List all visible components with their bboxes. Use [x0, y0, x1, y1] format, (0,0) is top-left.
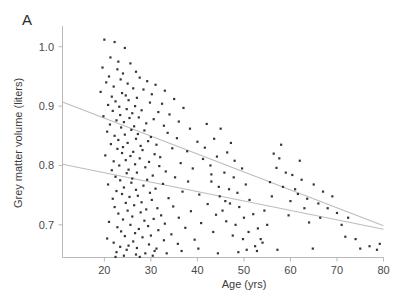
data-point	[123, 186, 125, 188]
data-point	[150, 136, 152, 138]
data-point	[107, 104, 109, 106]
data-point	[257, 227, 259, 229]
data-point	[107, 183, 109, 185]
data-point	[178, 120, 180, 122]
data-point	[341, 224, 343, 226]
data-point	[260, 238, 262, 240]
data-point	[131, 177, 133, 179]
data-point	[132, 151, 134, 153]
data-point	[134, 105, 136, 107]
data-point	[121, 92, 123, 94]
data-point	[120, 230, 122, 232]
data-point	[271, 195, 273, 197]
data-point	[234, 160, 236, 162]
data-point	[114, 206, 116, 208]
data-point	[128, 196, 130, 198]
data-point	[158, 165, 160, 167]
data-point	[127, 245, 129, 247]
data-point	[151, 199, 153, 201]
data-point	[213, 138, 215, 140]
data-point	[247, 231, 249, 233]
data-point	[139, 77, 141, 79]
data-point	[146, 80, 148, 82]
x-tick-label: 30	[145, 264, 157, 276]
data-point	[102, 115, 104, 117]
data-point	[212, 231, 214, 233]
data-point	[207, 203, 209, 205]
data-point	[126, 172, 128, 174]
data-point	[120, 78, 122, 80]
data-point	[215, 214, 217, 216]
data-point	[180, 162, 182, 164]
data-point	[132, 240, 134, 242]
data-point	[219, 195, 221, 197]
data-point	[288, 214, 290, 216]
data-point	[221, 210, 223, 212]
data-point	[117, 212, 119, 214]
data-point	[209, 164, 211, 166]
data-point	[127, 210, 129, 212]
data-point	[184, 227, 186, 229]
data-point	[112, 110, 114, 112]
data-point	[174, 176, 176, 178]
data-point	[376, 249, 378, 251]
data-point	[275, 167, 277, 169]
x-tick-label: 80	[377, 264, 389, 276]
data-point	[140, 109, 142, 111]
data-point	[130, 182, 132, 184]
data-point	[210, 173, 212, 175]
x-tick-label: 40	[191, 264, 203, 276]
data-point	[114, 41, 116, 43]
data-point	[110, 143, 112, 145]
data-point	[133, 204, 135, 206]
data-point	[127, 169, 129, 171]
data-point	[129, 62, 131, 64]
data-point	[269, 181, 271, 183]
data-point	[122, 146, 124, 148]
data-point	[109, 123, 111, 125]
data-point	[139, 157, 141, 159]
data-point	[129, 155, 131, 157]
data-point	[285, 172, 287, 174]
data-point	[152, 255, 154, 257]
data-point	[162, 183, 164, 185]
data-point	[154, 84, 156, 86]
data-point	[204, 147, 206, 149]
data-point	[306, 198, 308, 200]
data-point	[220, 128, 222, 130]
data-point	[194, 239, 196, 241]
data-point	[145, 122, 147, 124]
x-tick-label: 20	[98, 264, 110, 276]
data-point	[140, 145, 142, 147]
data-point	[168, 113, 170, 115]
data-point	[137, 195, 139, 197]
data-point	[164, 223, 166, 225]
figure-panel-a: A 0.70.80.91.0 20304050607080 Age (yrs) …	[0, 0, 416, 303]
data-point	[135, 71, 137, 73]
data-point	[210, 180, 212, 182]
data-point	[105, 81, 107, 83]
data-point	[139, 256, 141, 258]
data-point	[144, 252, 146, 254]
data-point	[134, 232, 136, 234]
data-point	[254, 245, 256, 247]
data-point	[134, 163, 136, 165]
data-point	[127, 82, 129, 84]
data-point	[229, 202, 231, 204]
y-axis-title: Grey matter volume (liters)	[12, 78, 24, 208]
data-point	[125, 94, 127, 96]
data-point	[176, 137, 178, 139]
data-point	[135, 189, 137, 191]
data-point	[226, 151, 228, 153]
data-point	[217, 252, 219, 254]
data-point	[299, 160, 301, 162]
data-point	[111, 96, 113, 98]
data-point	[115, 190, 117, 192]
data-point	[233, 176, 235, 178]
x-tick-label: 70	[331, 264, 343, 276]
data-point	[216, 155, 218, 157]
data-point	[136, 172, 138, 174]
data-point	[112, 198, 114, 200]
data-point	[245, 183, 247, 185]
data-point	[128, 117, 130, 119]
